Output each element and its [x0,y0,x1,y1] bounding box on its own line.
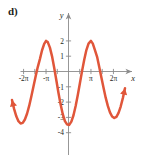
y-axis-label: y [59,11,64,20]
graph-canvas: -2π-ππ2π21-1-2-3-4 xy [0,0,143,164]
x-axis-label: x [130,74,135,83]
axis-name-labels-group: xy [59,11,136,84]
part-label: d) [8,6,18,17]
x-tick-label: -2π [19,74,29,83]
x-tick-label: -π [43,74,49,83]
y-tick-label: -4 [58,128,64,137]
y-tick-label: 1 [60,52,64,61]
y-tick-label: 2 [60,37,64,46]
axes-group [21,13,133,155]
figure-container: d) -2π-ππ2π21-1-2-3-4 xy [0,0,143,164]
x-tick-label: π [89,74,93,83]
x-tick-label: 2π [110,74,118,83]
